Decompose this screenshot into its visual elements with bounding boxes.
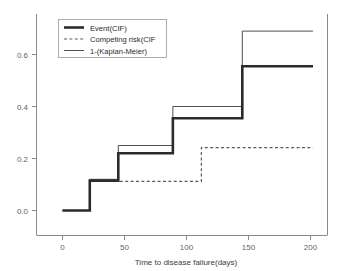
y-tick-label-2: 0.4 <box>17 103 29 112</box>
legend-label-kaplan-meier: 1-(Kaplan-Meier) <box>90 47 147 56</box>
x-axis-title: Time to disease failure(days) <box>135 258 238 267</box>
y-tick-label-1: 0.2 <box>17 155 29 164</box>
y-tick-label-3: 0.6 <box>17 51 29 60</box>
y-tick-label-0: 0.0 <box>17 207 29 216</box>
legend-label-competing-risk: Competing risk(CIF <box>90 35 156 44</box>
x-tick-label-2: 100 <box>180 243 194 252</box>
x-tick-label-4: 200 <box>304 243 318 252</box>
x-tick-label-0: 0 <box>60 243 65 252</box>
chart-background <box>0 0 341 271</box>
chart-canvas: 0.0 0.2 0.4 0.6 0 50 100 150 200 Time to… <box>0 0 341 271</box>
cumulative-incidence-chart: 0.0 0.2 0.4 0.6 0 50 100 150 200 Time to… <box>0 0 341 271</box>
x-tick-label-3: 150 <box>242 243 256 252</box>
legend-label-event-cif: Event(CIF) <box>90 24 127 33</box>
chart-legend: Event(CIF) Competing risk(CIF 1-(Kaplan-… <box>59 20 167 58</box>
x-tick-label-1: 50 <box>120 243 129 252</box>
